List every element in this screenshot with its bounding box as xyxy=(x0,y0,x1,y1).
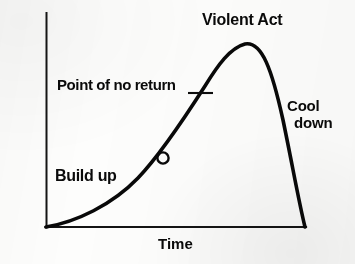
annotation-violent-act: Violent Act xyxy=(202,12,282,28)
annotation-point-of-no-return: Point of no return xyxy=(57,77,176,92)
chart-canvas xyxy=(0,0,355,264)
escalation-point-marker-icon xyxy=(157,152,168,163)
annotation-cool-down-line1: Cool xyxy=(287,97,320,114)
anger-curve-figure: Anger Level Time Violent Act Point of no… xyxy=(0,0,355,264)
annotation-cool-down: Cool down xyxy=(287,98,332,131)
annotation-build-up: Build up xyxy=(55,168,117,184)
x-axis-title: Time xyxy=(158,236,193,251)
annotation-cool-down-line2: down xyxy=(287,115,332,130)
anger-level-curve xyxy=(46,44,305,227)
